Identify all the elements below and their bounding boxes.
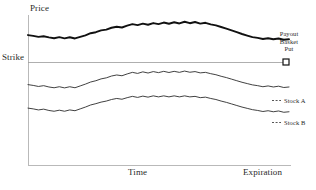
legend-stock-b: Stock B xyxy=(284,119,305,127)
legend-payout-line-3: Put xyxy=(272,45,306,53)
x-axis-end-label: Expiration xyxy=(243,167,282,177)
series-stock-b xyxy=(28,96,289,112)
legend-payout-line-2: Basket xyxy=(272,38,306,46)
strike-axis-label: Strike xyxy=(2,52,24,62)
chart-figure: Price Strike Time Expiration Payout Bask… xyxy=(0,0,316,190)
legend-payout-line-1: Payout xyxy=(272,30,306,38)
y-axis-title: Price xyxy=(30,3,49,13)
series-stock-a xyxy=(28,71,289,88)
chart-plot-area xyxy=(0,0,316,190)
legend-stock-a: Stock A xyxy=(284,97,305,105)
legend-payout-basket-put: Payout Basket Put xyxy=(272,30,306,53)
series-payout-basket-put xyxy=(28,22,289,40)
x-axis-title: Time xyxy=(128,167,147,177)
payout-square-marker xyxy=(283,59,289,65)
